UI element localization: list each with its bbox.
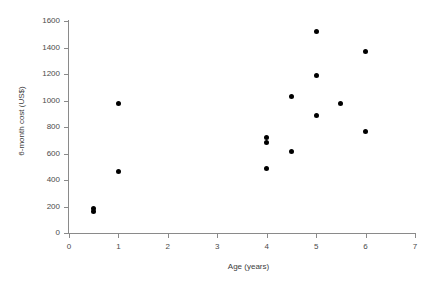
data-point <box>289 149 294 154</box>
x-axis-tick-label: 4 <box>255 243 279 251</box>
x-axis-tick <box>366 234 367 238</box>
x-axis-tick-label: 3 <box>205 243 229 251</box>
x-axis-tick <box>316 234 317 238</box>
data-point <box>116 169 121 174</box>
data-point <box>264 140 269 145</box>
data-point <box>363 49 368 54</box>
y-axis-tick-label: 1600 <box>20 17 60 25</box>
x-axis-tick <box>118 234 119 238</box>
y-axis-tick <box>64 154 68 155</box>
x-axis-title: Age (years) <box>0 263 437 271</box>
scatter-chart: 6-month cost (US$) Age (years) 020040060… <box>0 0 437 281</box>
data-point <box>314 113 319 118</box>
data-point <box>314 73 319 78</box>
x-axis-tick <box>415 234 416 238</box>
x-axis-tick-label: 6 <box>354 243 378 251</box>
x-axis-tick <box>267 234 268 238</box>
x-axis-tick-label: 1 <box>106 243 130 251</box>
x-axis-tick <box>168 234 169 238</box>
y-axis-tick <box>64 180 68 181</box>
y-axis-tick <box>64 233 68 234</box>
data-point <box>264 166 269 171</box>
y-axis-tick <box>64 48 68 49</box>
x-axis-tick-label: 5 <box>304 243 328 251</box>
y-axis-tick <box>64 101 68 102</box>
y-axis-tick <box>64 21 68 22</box>
x-axis-tick-label: 2 <box>156 243 180 251</box>
y-axis-tick-label: 200 <box>20 203 60 211</box>
x-axis-line <box>68 233 416 234</box>
y-axis-tick-label: 1200 <box>20 70 60 78</box>
data-point <box>289 94 294 99</box>
data-point <box>314 29 319 34</box>
x-axis-tick <box>217 234 218 238</box>
y-axis-tick-label: 0 <box>20 229 60 237</box>
y-axis-tick <box>64 127 68 128</box>
y-axis-title: 6-month cost (US$) <box>18 61 26 181</box>
y-axis-tick-label: 400 <box>20 176 60 184</box>
x-axis-tick-label: 7 <box>403 243 427 251</box>
y-axis-tick-label: 1000 <box>20 97 60 105</box>
y-axis-tick-label: 800 <box>20 123 60 131</box>
y-axis-tick-label: 1400 <box>20 44 60 52</box>
y-axis-tick <box>64 207 68 208</box>
x-axis-tick <box>69 234 70 238</box>
x-axis-tick-label: 0 <box>57 243 81 251</box>
y-axis-tick-label: 600 <box>20 150 60 158</box>
y-axis-tick <box>64 74 68 75</box>
